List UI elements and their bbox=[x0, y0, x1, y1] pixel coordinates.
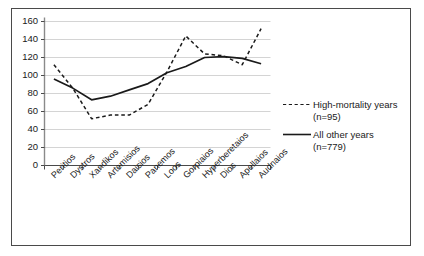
y-tick-label: 40 bbox=[12, 124, 38, 134]
y-tick-label: 80 bbox=[12, 88, 38, 98]
y-tick-label: 100 bbox=[12, 70, 38, 80]
chart-figure: 020406080100120140160 PeritiosDystrosXan… bbox=[0, 0, 424, 256]
y-tick-label: 0 bbox=[12, 160, 38, 170]
legend-sublabel: (n=779) bbox=[313, 141, 374, 153]
axes-group bbox=[41, 18, 45, 166]
y-tick-label: 20 bbox=[12, 142, 38, 152]
y-tick-label: 60 bbox=[12, 106, 38, 116]
legend-sublabel: (n=95) bbox=[313, 111, 397, 123]
y-tick-label: 120 bbox=[12, 52, 38, 62]
legend-label: High-mortality years bbox=[313, 99, 397, 110]
dashed-line-marker bbox=[283, 99, 313, 110]
legend-item: All other years (n=779) bbox=[283, 129, 407, 152]
legend-label-group: High-mortality years (n=95) bbox=[313, 99, 397, 122]
legend-label: All other years bbox=[313, 129, 374, 140]
chart-legend: High-mortality years (n=95) All other ye… bbox=[283, 99, 407, 159]
series-group bbox=[54, 29, 261, 119]
solid-line-marker bbox=[283, 129, 313, 140]
legend-item: High-mortality years (n=95) bbox=[283, 99, 407, 122]
y-tick-label: 140 bbox=[12, 34, 38, 44]
series-line-0 bbox=[54, 29, 261, 119]
y-tick-label: 160 bbox=[12, 16, 38, 26]
legend-label-group: All other years (n=779) bbox=[313, 129, 374, 152]
